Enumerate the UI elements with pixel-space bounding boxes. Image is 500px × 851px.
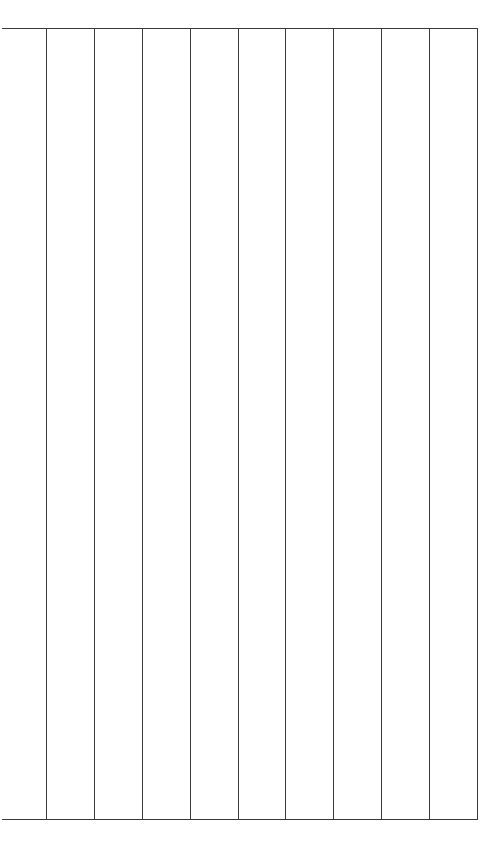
top-rule bbox=[2, 28, 478, 29]
column-divider bbox=[190, 28, 191, 820]
bottom-rule bbox=[2, 819, 478, 820]
column-divider bbox=[477, 28, 478, 820]
column-divider bbox=[285, 28, 286, 820]
column-divider bbox=[238, 28, 239, 820]
column-divider bbox=[381, 28, 382, 820]
column-divider bbox=[142, 28, 143, 820]
column-divider bbox=[429, 28, 430, 820]
ruled-grid bbox=[0, 0, 500, 851]
column-divider bbox=[94, 28, 95, 820]
column-divider bbox=[333, 28, 334, 820]
column-divider bbox=[46, 28, 47, 820]
